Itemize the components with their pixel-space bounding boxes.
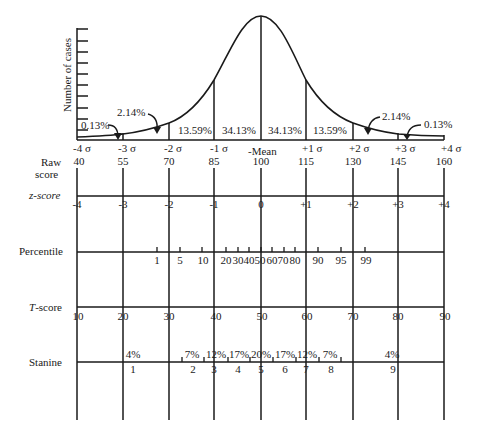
pct-right-0: 34.13% <box>268 124 302 136</box>
svg-text:3: 3 <box>211 363 217 375</box>
svg-text:+1 σ: +1 σ <box>302 142 322 154</box>
svg-text:70: 70 <box>164 155 176 167</box>
svg-text:60: 60 <box>267 254 279 266</box>
svg-text:9: 9 <box>390 363 396 375</box>
svg-text:70: 70 <box>278 254 290 266</box>
svg-text:80: 80 <box>393 310 405 322</box>
svg-text:145: 145 <box>390 155 407 167</box>
svg-text:17%: 17% <box>275 348 295 360</box>
svg-text:+4: +4 <box>438 198 450 210</box>
svg-text:+3 σ: +3 σ <box>395 142 415 154</box>
t-score-values: 10 20 30 40 50 60 70 80 90 <box>73 310 452 322</box>
svg-text:20%: 20% <box>251 348 271 360</box>
pct-left-1: 13.59% <box>178 124 212 136</box>
arrow-icons <box>108 114 421 137</box>
svg-text:10: 10 <box>198 254 210 266</box>
svg-text:80: 80 <box>290 254 302 266</box>
svg-text:1: 1 <box>130 363 136 375</box>
svg-text:-4: -4 <box>72 198 82 210</box>
svg-text:130: 130 <box>345 155 362 167</box>
svg-text:4: 4 <box>235 363 241 375</box>
svg-text:8: 8 <box>328 363 334 375</box>
svg-text:7: 7 <box>303 363 309 375</box>
svg-text:-2 σ: -2 σ <box>164 142 182 154</box>
svg-text:5: 5 <box>258 363 264 375</box>
normal-distribution-diagram: Number of cases 13.59% 34.13% 34.13% 13.… <box>0 0 479 443</box>
svg-text:60: 60 <box>302 310 314 322</box>
stanine-numbers: 1 2 3 4 5 6 7 8 9 <box>130 363 396 375</box>
svg-text:7%: 7% <box>323 348 338 360</box>
svg-text:6: 6 <box>282 363 288 375</box>
pct-left-0: 34.13% <box>222 124 256 136</box>
svg-text:115: 115 <box>298 155 315 167</box>
svg-text:-3 σ: -3 σ <box>118 142 136 154</box>
raw-score-values: 40 55 70 85 100 115 130 145 160 <box>74 155 453 167</box>
svg-text:2: 2 <box>190 363 196 375</box>
svg-text:+4 σ: +4 σ <box>441 142 461 154</box>
svg-text:40: 40 <box>244 254 256 266</box>
svg-text:1: 1 <box>154 254 160 266</box>
arrowheads <box>114 127 411 140</box>
svg-text:4%: 4% <box>126 348 141 360</box>
svg-text:40: 40 <box>74 155 86 167</box>
svg-text:12%: 12% <box>297 348 317 360</box>
pct-right-tail: 0.13% <box>424 118 452 130</box>
y-axis-label: Number of cases <box>61 38 73 112</box>
svg-text:+1: +1 <box>300 198 312 210</box>
svg-text:17%: 17% <box>229 348 249 360</box>
svg-text:12%: 12% <box>206 348 226 360</box>
svg-text:5: 5 <box>177 254 183 266</box>
svg-text:99: 99 <box>361 254 373 266</box>
svg-text:20: 20 <box>118 310 130 322</box>
svg-text:-3: -3 <box>118 198 128 210</box>
svg-text:100: 100 <box>253 155 270 167</box>
z-score-values: -4 -3 -2 -1 0 +1 +2 +3 +4 <box>72 198 450 210</box>
svg-text:85: 85 <box>209 155 221 167</box>
svg-text:20: 20 <box>221 254 233 266</box>
svg-text:7%: 7% <box>185 348 200 360</box>
svg-text:70: 70 <box>348 310 360 322</box>
svg-text:160: 160 <box>436 155 453 167</box>
svg-text:30: 30 <box>164 310 176 322</box>
percentile-values: 1 5 10 20 30 40 50 60 70 80 90 95 99 <box>154 254 372 266</box>
svg-text:10: 10 <box>73 310 85 322</box>
svg-text:-1 σ: -1 σ <box>210 142 228 154</box>
svg-text:0: 0 <box>258 198 264 210</box>
svg-text:50: 50 <box>255 254 267 266</box>
pct-left-tail: 0.13% <box>81 119 109 131</box>
svg-text:30: 30 <box>233 254 245 266</box>
svg-text:+3: +3 <box>392 198 404 210</box>
svg-text:90: 90 <box>440 310 452 322</box>
pct-left-2: 2.14% <box>117 106 145 118</box>
svg-text:+2 σ: +2 σ <box>349 142 369 154</box>
svg-text:-4 σ: -4 σ <box>73 142 91 154</box>
svg-text:+2: +2 <box>347 198 359 210</box>
svg-text:55: 55 <box>118 155 130 167</box>
svg-text:95: 95 <box>336 254 348 266</box>
row-label-raw: Raw <box>41 156 61 168</box>
pct-right-2: 2.14% <box>382 110 410 122</box>
svg-text:90: 90 <box>313 254 325 266</box>
row-label-raw-2: score <box>35 168 58 180</box>
pct-right-1: 13.59% <box>313 124 347 136</box>
svg-text:4%: 4% <box>385 348 400 360</box>
stanine-percents: 4% 7% 12% 17% 20% 17% 12% 7% 4% <box>126 348 400 360</box>
svg-text:-2: -2 <box>164 198 173 210</box>
row-label-t: T-score <box>29 301 62 313</box>
svg-text:40: 40 <box>211 310 223 322</box>
svg-text:50: 50 <box>257 310 269 322</box>
svg-text:-1: -1 <box>209 198 218 210</box>
row-label-z: z-score <box>28 189 60 201</box>
row-label-percentile: Percentile <box>19 245 63 257</box>
row-label-stanine: Stanine <box>29 356 62 368</box>
